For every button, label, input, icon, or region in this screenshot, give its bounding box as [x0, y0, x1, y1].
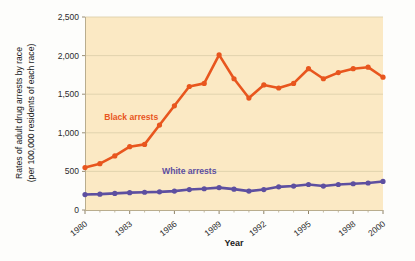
y-tick-label: 1,500 — [58, 89, 80, 99]
y-tick-label: 2,500 — [58, 12, 80, 22]
data-point — [82, 165, 87, 170]
data-point — [261, 82, 266, 87]
data-point — [217, 185, 222, 190]
data-point — [246, 188, 251, 193]
data-point — [97, 192, 102, 197]
chart-figure: 05001,0001,5002,0002,500 198019831986198… — [0, 0, 415, 261]
data-point — [276, 85, 281, 90]
y-tick-label: 500 — [65, 166, 79, 176]
data-point — [336, 70, 341, 75]
data-point — [157, 122, 162, 127]
data-point — [97, 161, 102, 166]
data-point — [321, 183, 326, 188]
data-point — [82, 192, 87, 197]
data-point — [366, 65, 371, 70]
y-axis-title-line1: Rates of adult drug arrests by race — [14, 47, 24, 179]
data-point — [231, 76, 236, 81]
data-point — [380, 179, 385, 184]
series-label-white-arrests: White arrests — [162, 166, 217, 176]
data-point — [127, 144, 132, 149]
y-axis-title-line2: (per 100,000 residents of each race) — [26, 44, 36, 183]
data-point — [187, 187, 192, 192]
data-point — [202, 81, 207, 86]
data-point — [202, 186, 207, 191]
data-point — [291, 81, 296, 86]
data-point — [112, 153, 117, 158]
data-point — [246, 95, 251, 100]
y-tick-label: 0 — [74, 205, 79, 215]
data-point — [306, 66, 311, 71]
data-point — [276, 184, 281, 189]
data-point — [366, 180, 371, 185]
x-axis-title: Year — [224, 238, 244, 248]
data-point — [142, 190, 147, 195]
data-point — [351, 66, 356, 71]
y-tick-label: 1,000 — [58, 128, 80, 138]
data-point — [306, 182, 311, 187]
data-point — [231, 187, 236, 192]
data-point — [172, 103, 177, 108]
data-point — [142, 142, 147, 147]
data-point — [291, 183, 296, 188]
data-point — [112, 191, 117, 196]
data-point — [321, 76, 326, 81]
data-point — [187, 84, 192, 89]
data-point — [157, 189, 162, 194]
data-point — [336, 182, 341, 187]
data-point — [172, 188, 177, 193]
y-tick-label: 2,000 — [58, 51, 80, 61]
data-point — [351, 181, 356, 186]
data-point — [261, 187, 266, 192]
data-point — [380, 75, 385, 80]
data-point — [217, 52, 222, 57]
series-label-black-arrests: Black arrests — [104, 112, 158, 122]
data-point — [127, 190, 132, 195]
drug-arrest-rates-line-chart: 05001,0001,5002,0002,500 198019831986198… — [0, 0, 415, 261]
